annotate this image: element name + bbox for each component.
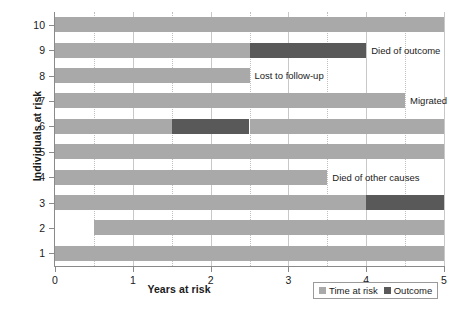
y-axis-tick-label: 6 [21, 120, 45, 132]
y-axis-tick-label: 3 [21, 197, 45, 209]
bar-row: Died of outcome [55, 43, 444, 58]
bar-row: Died of other causes [55, 170, 444, 185]
y-axis-tick [49, 152, 55, 153]
y-axis-tick-label: 4 [21, 171, 45, 183]
x-axis-tick-label: 1 [118, 274, 148, 286]
bar-segment-outcome [172, 119, 250, 134]
bar-row [55, 246, 444, 261]
y-axis-tick-label: 7 [21, 95, 45, 107]
bar-annotation: Lost to follow-up [255, 68, 324, 83]
y-axis-tick [49, 101, 55, 102]
y-axis-tick [49, 203, 55, 204]
y-axis-tick [49, 177, 55, 178]
bar-row [55, 195, 444, 210]
bar-segment-outcome [250, 43, 367, 58]
legend-swatch-icon [384, 287, 391, 294]
y-axis-tick-label: 2 [21, 222, 45, 234]
y-axis-tick-label: 8 [21, 70, 45, 82]
legend-item-label: Outcome [394, 285, 433, 296]
bar-row: Migrated [55, 93, 444, 108]
bar-segment-time-at-risk [55, 195, 366, 210]
y-axis-tick-label: 5 [21, 146, 45, 158]
x-axis-tick [133, 266, 134, 272]
y-axis-tick [49, 76, 55, 77]
bar-segment-time-at-risk [55, 119, 172, 134]
chart-legend[interactable]: Time at riskOutcome [313, 282, 438, 299]
x-axis-tick [288, 266, 289, 272]
bar-segment-time-at-risk [94, 220, 444, 235]
bar-row [55, 17, 444, 32]
y-axis-tick [49, 50, 55, 51]
lexis-swimmer-chart: Individuals at risk Years at risk Died o… [0, 0, 464, 312]
y-axis-tick-label: 1 [21, 247, 45, 259]
bar-segment-time-at-risk [55, 246, 444, 261]
y-axis-tick-label: 10 [21, 19, 45, 31]
bar-annotation: Died of outcome [371, 43, 440, 58]
y-axis-tick [49, 126, 55, 127]
legend-swatch-icon [319, 287, 326, 294]
x-axis-tick-label: 3 [273, 274, 303, 286]
bar-annotation: Migrated [410, 93, 447, 108]
y-axis-tick [49, 228, 55, 229]
x-axis-tick-label: 2 [196, 274, 226, 286]
plot-area: Died of outcomeLost to follow-upMigrated… [54, 12, 444, 267]
y-axis-tick-label: 9 [21, 44, 45, 56]
bar-segment-outcome [366, 195, 444, 210]
bar-segment-time-at-risk [55, 144, 444, 159]
bar-segment-time-at-risk [55, 43, 250, 58]
bar-segment-time-at-risk [55, 170, 327, 185]
bar-row [55, 119, 444, 134]
y-axis-tick [49, 253, 55, 254]
x-axis-tick [55, 266, 56, 272]
bar-annotation: Died of other causes [332, 170, 419, 185]
legend-item-label: Time at risk [329, 285, 378, 296]
x-axis-title: Years at risk [54, 283, 304, 295]
bar-row: Lost to follow-up [55, 68, 444, 83]
legend-item[interactable]: Outcome [384, 285, 433, 296]
bar-segment-time-at-risk [250, 119, 445, 134]
x-axis-tick-label: 0 [40, 274, 70, 286]
bar-row [55, 220, 444, 235]
bar-segment-time-at-risk [55, 93, 405, 108]
bar-segment-time-at-risk [55, 68, 250, 83]
gridline-major [444, 12, 445, 266]
x-axis-tick [211, 266, 212, 272]
x-axis-tick [366, 266, 367, 272]
x-axis-tick [444, 266, 445, 272]
y-axis-tick [49, 25, 55, 26]
bar-segment-time-at-risk [55, 17, 444, 32]
legend-item[interactable]: Time at risk [319, 285, 378, 296]
bar-row [55, 144, 444, 159]
